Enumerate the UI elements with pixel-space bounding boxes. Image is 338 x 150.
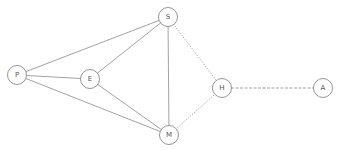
nodes: P E S M H A xyxy=(8,8,333,145)
node-s[interactable]: S xyxy=(159,8,178,27)
node-m-label: M xyxy=(166,131,172,139)
edge-e-m xyxy=(90,79,169,135)
node-h-label: H xyxy=(219,84,224,92)
node-e[interactable]: E xyxy=(81,70,100,89)
edges xyxy=(17,17,323,135)
node-a-label: A xyxy=(321,84,326,92)
node-s-label: S xyxy=(166,13,171,21)
edge-p-e xyxy=(17,75,90,79)
network-diagram: P E S M H A xyxy=(0,0,338,150)
node-a[interactable]: A xyxy=(314,79,333,98)
node-p-label: P xyxy=(15,71,19,79)
node-p[interactable]: P xyxy=(8,66,27,85)
edge-s-h xyxy=(168,17,222,88)
node-m[interactable]: M xyxy=(160,126,179,145)
node-h[interactable]: H xyxy=(213,79,232,98)
edge-s-m xyxy=(168,17,169,135)
node-e-label: E xyxy=(88,75,92,83)
edge-m-h xyxy=(169,88,222,135)
edge-e-s xyxy=(90,17,168,79)
edge-p-s xyxy=(17,17,168,75)
